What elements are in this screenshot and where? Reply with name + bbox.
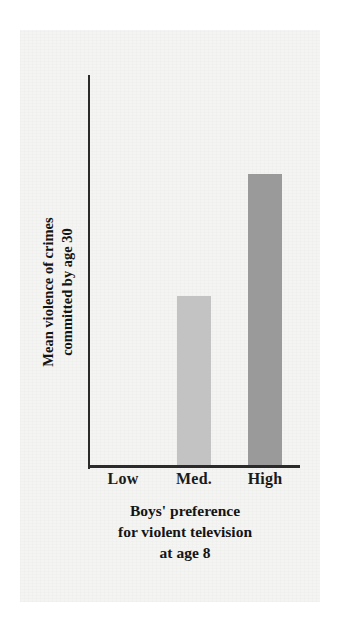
bar-slot-low — [88, 110, 158, 465]
bar-med — [177, 296, 211, 465]
bar-slot-high — [230, 110, 300, 465]
y-axis-title-line-2: committed by age 30 — [58, 228, 77, 356]
bar-slot-med — [159, 110, 229, 465]
x-axis-tick-labels: Low Med. High — [88, 470, 300, 500]
figure-root: Low Med. High Mean violence of crimes co… — [0, 0, 346, 628]
x-axis-title: Boys' preference for violent television … — [60, 500, 310, 563]
x-tick-label-low: Low — [88, 470, 158, 488]
x-tick-label-high: High — [230, 470, 300, 488]
y-axis-title-line-1: Mean violence of crimes — [39, 217, 58, 366]
x-tick-label-med: Med. — [159, 470, 229, 488]
bar-chart: Low Med. High Mean violence of crimes co… — [0, 0, 346, 628]
x-axis-line — [88, 465, 300, 468]
bar-high — [248, 174, 282, 465]
y-axis-title: Mean violence of crimes committed by age… — [34, 176, 82, 408]
x-axis-title-line-3: at age 8 — [60, 542, 310, 563]
x-axis-title-line-1: Boys' preference — [60, 500, 310, 521]
x-axis-title-line-2: for violent television — [60, 521, 310, 542]
bars-layer — [88, 110, 300, 465]
